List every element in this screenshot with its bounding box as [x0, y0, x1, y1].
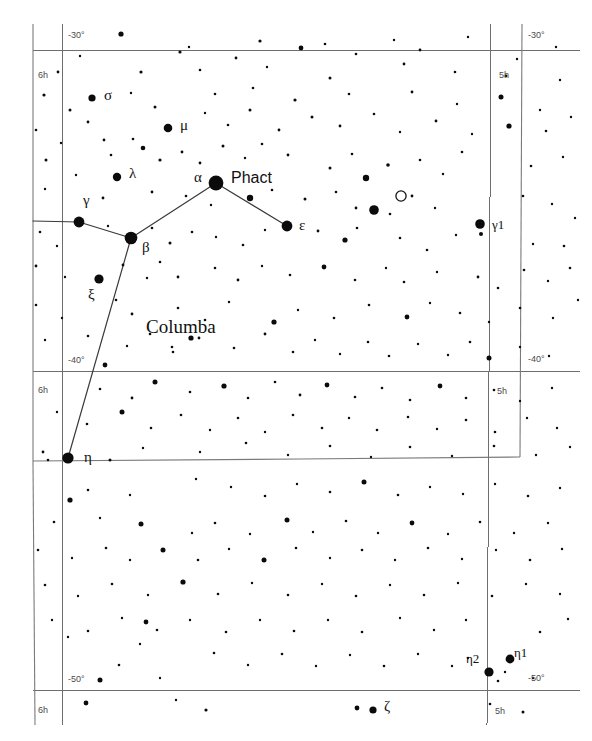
field-star — [355, 595, 358, 598]
field-star — [317, 230, 320, 233]
field-star — [84, 701, 89, 706]
field-star — [146, 277, 148, 279]
field-star — [516, 58, 518, 60]
field-star — [222, 145, 225, 148]
field-star — [86, 423, 89, 426]
field-star — [489, 703, 492, 706]
field-star — [559, 593, 561, 595]
field-star — [527, 495, 530, 498]
field-star — [249, 109, 252, 112]
field-star — [519, 307, 522, 310]
field-star — [214, 522, 217, 525]
field-star — [547, 522, 549, 524]
field-star — [539, 109, 541, 111]
field-star — [132, 138, 135, 141]
field-star — [461, 151, 464, 154]
star-chart: σμλαPhactγβεoξγ1ηη2η1ζ Columba -30° -30°… — [0, 0, 592, 741]
field-star — [261, 265, 263, 267]
label-zeta: ζ — [384, 698, 390, 714]
field-star — [361, 549, 364, 552]
field-star — [61, 317, 63, 319]
field-star — [556, 427, 558, 429]
field-star — [312, 531, 314, 533]
field-star — [386, 163, 390, 167]
field-star — [497, 287, 500, 290]
field-star — [465, 419, 468, 422]
field-star — [69, 109, 72, 112]
field-star — [488, 321, 490, 323]
field-star — [178, 50, 181, 53]
field-star — [296, 483, 298, 485]
field-star — [198, 337, 201, 340]
field-star — [209, 429, 211, 431]
field-star — [180, 579, 185, 584]
dec-label-bottom-left: -50° — [68, 674, 85, 684]
field-star — [419, 159, 422, 162]
field-star — [324, 43, 327, 46]
field-star — [154, 106, 157, 109]
field-star — [56, 411, 58, 413]
field-star — [153, 380, 158, 385]
field-star — [35, 129, 38, 132]
field-star — [376, 429, 379, 432]
field-star — [293, 630, 296, 633]
field-star — [171, 346, 174, 349]
field-star — [67, 636, 69, 638]
ra-line-5h — [487, 24, 491, 725]
field-star — [151, 227, 154, 230]
field-star — [67, 497, 72, 502]
field-star — [407, 416, 410, 419]
field-star — [547, 280, 549, 282]
field-star — [98, 678, 103, 683]
field-star — [188, 46, 190, 48]
field-star — [213, 652, 216, 655]
field-star — [180, 414, 183, 417]
field-star — [348, 417, 350, 419]
field-star — [237, 279, 240, 282]
field-star — [204, 112, 206, 114]
field-star — [368, 304, 371, 307]
constellation-line-2 — [131, 183, 216, 238]
field-star — [131, 313, 134, 316]
field-star — [217, 593, 220, 596]
field-star — [355, 706, 360, 711]
field-star — [64, 276, 66, 278]
field-star — [477, 276, 480, 279]
field-star — [356, 227, 359, 230]
constellation-line-0 — [33, 221, 79, 222]
named-stars — [62, 94, 514, 713]
field-star — [228, 301, 230, 303]
star-zeta — [369, 706, 376, 713]
field-star — [522, 195, 525, 198]
field-star — [259, 619, 261, 621]
field-star — [210, 204, 212, 206]
field-star — [244, 157, 246, 159]
field-star — [504, 671, 506, 673]
label-xi: ξ — [88, 286, 95, 302]
field-star — [252, 87, 255, 90]
field-star — [442, 173, 444, 175]
field-star — [293, 98, 296, 101]
field-star — [381, 387, 384, 390]
field-stars — [35, 31, 580, 713]
field-star — [235, 57, 238, 60]
field-star — [245, 442, 248, 445]
field-star — [311, 116, 314, 119]
field-star — [355, 53, 358, 56]
dec-line-minus50 — [33, 690, 580, 691]
field-star — [532, 243, 534, 245]
field-star — [354, 279, 357, 282]
label-gamma: γ — [82, 192, 90, 208]
field-star — [327, 619, 329, 621]
field-star — [120, 410, 125, 415]
field-star — [297, 309, 299, 311]
field-star — [363, 175, 369, 181]
field-star — [281, 653, 284, 656]
field-star — [491, 595, 494, 598]
star-eta2 — [484, 667, 493, 676]
star-labels: σμλαPhactγβεoξγ1ηη2η1ζ — [82, 87, 527, 714]
field-star — [377, 532, 379, 534]
field-star — [131, 397, 134, 400]
field-star — [195, 478, 197, 480]
star-epsilon — [282, 221, 293, 232]
